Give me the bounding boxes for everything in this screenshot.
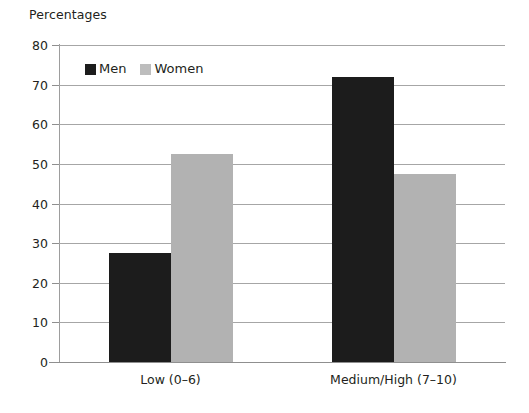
y-axis-tick	[52, 204, 59, 205]
chart-legend: MenWomen	[85, 62, 203, 76]
legend-label: Men	[99, 62, 126, 76]
y-axis-tick-labels: 01020304050607080	[0, 45, 48, 362]
bars-layer	[59, 45, 505, 362]
y-axis-tick-label: 60	[32, 118, 48, 131]
bar-men-1	[332, 77, 394, 362]
bar-women-0	[171, 154, 233, 362]
x-axis-category-label: Medium/High (7–10)	[330, 372, 457, 387]
y-axis-tick	[52, 85, 59, 86]
y-axis-tick-label: 20	[32, 276, 48, 289]
y-axis-tick-label: 0	[40, 356, 48, 369]
x-axis-category-labels: Low (0–6)Medium/High (7–10)	[59, 372, 505, 394]
y-axis-tick	[52, 322, 59, 323]
chart-title: Percentages	[29, 8, 107, 22]
y-axis-tick	[52, 124, 59, 125]
y-axis-tick-label: 10	[32, 316, 48, 329]
plot-area	[59, 45, 505, 362]
y-axis-tick	[52, 45, 59, 46]
y-axis-tick	[52, 164, 59, 165]
legend-swatch-icon	[85, 64, 96, 75]
x-axis-line	[49, 362, 506, 363]
bar-women-1	[394, 174, 456, 362]
y-axis-tick-label: 70	[32, 78, 48, 91]
legend-swatch-icon	[140, 64, 151, 75]
legend-item-women: Women	[140, 62, 203, 76]
y-axis-tick-label: 50	[32, 157, 48, 170]
y-axis-tick	[52, 243, 59, 244]
bar-men-0	[109, 253, 171, 362]
y-axis-tick-label: 30	[32, 237, 48, 250]
bar-chart: Percentages 01020304050607080 MenWomen L…	[0, 0, 529, 413]
legend-label: Women	[154, 62, 203, 76]
x-axis-category-label: Low (0–6)	[140, 372, 201, 387]
y-axis-tick-label: 80	[32, 39, 48, 52]
legend-item-men: Men	[85, 62, 126, 76]
y-axis-tick	[52, 283, 59, 284]
y-axis-tick-label: 40	[32, 197, 48, 210]
